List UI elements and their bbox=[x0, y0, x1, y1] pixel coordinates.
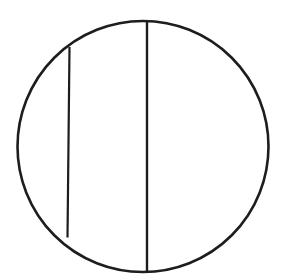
circle-diagram-svg bbox=[0, 0, 286, 280]
figure-canvas bbox=[0, 0, 286, 280]
left-vertical-chord bbox=[68, 47, 70, 238]
outer-circle bbox=[18, 21, 269, 272]
